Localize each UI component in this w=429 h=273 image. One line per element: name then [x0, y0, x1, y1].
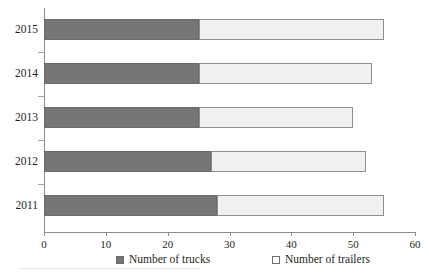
value-axis-tick	[291, 232, 292, 236]
bar-segment-trucks	[44, 63, 199, 84]
value-axis-tick-label: 30	[224, 238, 235, 251]
value-axis-tick-label: 20	[162, 238, 173, 251]
category-label-2011: 2011	[0, 199, 38, 212]
value-axis-tick-label: 10	[100, 238, 111, 251]
legend-label: Number of trailers	[285, 253, 370, 266]
bar-segment-trailers	[199, 19, 385, 40]
stacked-bar-chart: 0102030405060 20152014201320122011 Numbe…	[0, 0, 429, 273]
value-axis-tick	[44, 232, 45, 236]
value-axis-tick-label: 50	[348, 238, 359, 251]
bar-segment-trucks	[44, 107, 199, 128]
bar-segment-trailers	[211, 151, 366, 172]
category-label-2014: 2014	[0, 67, 38, 80]
value-axis-tick	[230, 232, 231, 236]
bar-segment-trucks	[44, 19, 199, 40]
value-axis-tick-label: 0	[41, 238, 47, 251]
bar-segment-trailers	[199, 107, 354, 128]
category-label-2012: 2012	[0, 155, 38, 168]
bar-segment-trucks	[44, 151, 211, 172]
chart-legend: Number of trucksNumber of trailers	[44, 253, 415, 267]
legend-swatch-trucks-icon	[116, 256, 124, 264]
value-axis-tick-label: 40	[286, 238, 297, 251]
bar-segment-trailers	[217, 195, 384, 216]
legend-swatch-trailers-icon	[272, 256, 280, 264]
legend-item-trailers: Number of trailers	[272, 253, 370, 266]
legend-item-trucks: Number of trucks	[116, 253, 210, 266]
plot-area	[44, 8, 415, 232]
value-axis-tick	[353, 232, 354, 236]
page-scan-artifact	[20, 268, 200, 269]
bar-segment-trucks	[44, 195, 217, 216]
bar-segment-trailers	[199, 63, 372, 84]
value-axis-tick	[168, 232, 169, 236]
value-axis-tick	[415, 232, 416, 236]
legend-label: Number of trucks	[129, 253, 210, 266]
category-label-2013: 2013	[0, 111, 38, 124]
value-axis-tick	[106, 232, 107, 236]
category-label-2015: 2015	[0, 23, 38, 36]
value-axis-tick-label: 60	[410, 238, 421, 251]
